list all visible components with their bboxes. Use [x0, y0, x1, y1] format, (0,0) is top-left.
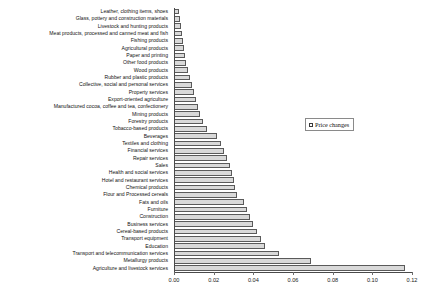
bar-row	[174, 221, 412, 228]
category-label: Agriculture and livestock services	[93, 265, 168, 272]
category-label: Paper and printing	[126, 52, 168, 59]
category-label: Rubber and plastic products	[105, 74, 168, 81]
bar-row	[174, 155, 412, 162]
bar-row	[174, 177, 412, 184]
bar	[174, 258, 311, 264]
plot-area	[174, 8, 412, 272]
bar-row	[174, 147, 412, 154]
bar	[174, 119, 203, 125]
chart-legend: Price changes	[305, 118, 354, 131]
category-label: Property services	[129, 89, 168, 96]
bar-row	[174, 96, 412, 103]
bar	[174, 141, 221, 147]
bar	[174, 221, 253, 227]
bar-row	[174, 199, 412, 206]
bar-row	[174, 169, 412, 176]
bar	[174, 104, 198, 110]
x-tick-mark	[214, 272, 215, 275]
bar	[174, 82, 192, 88]
bar	[174, 163, 230, 169]
bar	[174, 97, 196, 103]
bar-row	[174, 213, 412, 220]
bar-row	[174, 235, 412, 242]
category-label: Transport and telecommunication services	[72, 250, 168, 257]
bar	[174, 67, 188, 73]
bar-row	[174, 191, 412, 198]
category-label: Beverages	[144, 133, 168, 140]
bar-row	[174, 206, 412, 213]
bar-row	[174, 30, 412, 37]
x-tick-mark	[293, 272, 294, 275]
bar-row	[174, 265, 412, 272]
bar-row	[174, 74, 412, 81]
category-label: Hotel and restaurant services	[102, 177, 168, 184]
bar-row	[174, 103, 412, 110]
x-tick-label: 0.10	[367, 277, 378, 283]
bar-row	[174, 52, 412, 59]
bar	[174, 31, 182, 37]
category-label: Health and social services	[109, 169, 168, 176]
bar-row	[174, 111, 412, 118]
bar	[174, 133, 217, 139]
category-label: Construction	[139, 213, 168, 220]
category-label: Education	[145, 243, 168, 250]
bar-row	[174, 257, 412, 264]
category-label: Collective, social and personal services	[79, 81, 168, 88]
bar	[174, 75, 190, 81]
x-tick-mark	[412, 272, 413, 275]
x-tick-label: 0.04	[248, 277, 259, 283]
x-tick-mark	[333, 272, 334, 275]
category-label: Other food products	[123, 59, 168, 66]
bar-row	[174, 184, 412, 191]
bar-row	[174, 125, 412, 132]
x-tick-label: 0.06	[288, 277, 299, 283]
category-label: Chemical products	[126, 184, 168, 191]
bar-row	[174, 67, 412, 74]
bar	[174, 23, 181, 29]
bar	[174, 192, 237, 198]
bar	[174, 265, 405, 271]
bar	[174, 236, 261, 242]
category-label: Repair services	[133, 155, 168, 162]
bar	[174, 251, 279, 257]
x-tick-label: 0.08	[327, 277, 338, 283]
bar	[174, 214, 250, 220]
category-label: Metallurgy products	[124, 257, 168, 264]
category-axis-labels: Leather, clothing items, shoesGlass, pot…	[0, 8, 171, 272]
bar-row	[174, 118, 412, 125]
category-label: Furniture	[148, 206, 168, 213]
bar	[174, 229, 257, 235]
bar-row	[174, 243, 412, 250]
legend-label-price-changes: Price changes	[315, 121, 349, 128]
bar-row	[174, 45, 412, 52]
bar	[174, 126, 207, 132]
bar	[174, 155, 227, 161]
bar-row	[174, 162, 412, 169]
bar-row	[174, 250, 412, 257]
category-label: Financial services	[128, 147, 168, 154]
bar-row	[174, 8, 412, 15]
x-tick-mark	[372, 272, 373, 275]
bar	[174, 53, 185, 59]
category-label: Forestry products	[128, 118, 168, 125]
category-label: Transport equipment	[121, 235, 168, 242]
bar-row	[174, 140, 412, 147]
category-label: Meat products, processed and canned meat…	[49, 30, 168, 37]
bar	[174, 170, 232, 176]
category-label: Livestock and hunting products	[98, 23, 168, 30]
bar	[174, 60, 186, 66]
category-label: Glass, pottery and construction material…	[76, 15, 168, 22]
x-tick-label: 0.00	[169, 277, 180, 283]
category-label: Business services	[127, 221, 168, 228]
bar-row	[174, 23, 412, 30]
x-tick-label: 0.12	[407, 277, 418, 283]
bar	[174, 45, 184, 51]
bar-row	[174, 15, 412, 22]
bar-row	[174, 133, 412, 140]
legend-swatch-price-changes	[309, 123, 313, 127]
bar-row	[174, 228, 412, 235]
category-label: Textiles and clothing	[122, 140, 168, 147]
category-label: Manufactured cocoa, coffee and tea, conf…	[54, 103, 168, 110]
category-label: Fishing products	[131, 37, 168, 44]
bar	[174, 38, 183, 44]
